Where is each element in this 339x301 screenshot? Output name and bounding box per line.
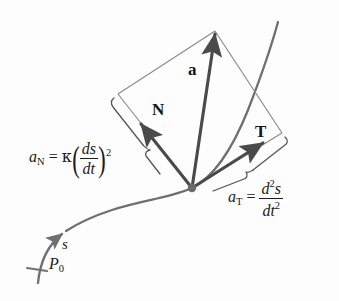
normal-formula-paren-close: ) bbox=[98, 145, 105, 173]
start-point-letter: P bbox=[49, 255, 59, 272]
acceleration-vector-label: a bbox=[188, 61, 197, 78]
d2s-dt2-fraction: d2sdt2 bbox=[259, 178, 283, 219]
tangential-component-formula: aT=d2sdt2 bbox=[228, 178, 283, 219]
dt2-denominator: dt2 bbox=[259, 199, 283, 219]
acceleration-decomposition-figure: a N T aN=κ(dsdt)2 aT=d2sdt2 s P0 bbox=[0, 0, 339, 301]
tangential-formula-subscript: T bbox=[236, 196, 242, 207]
tangential-vector-label: T bbox=[255, 123, 266, 140]
normal-vector-label: N bbox=[152, 101, 164, 118]
dt2-denominator-dt: dt bbox=[262, 201, 274, 218]
normal-formula-equals: = bbox=[49, 148, 58, 165]
normal-formula-exponent: 2 bbox=[106, 147, 111, 158]
normal-formula-subscript: N bbox=[37, 156, 45, 167]
dt2-denominator-exponent: 2 bbox=[275, 200, 280, 211]
parallelogram-construction bbox=[118, 31, 282, 188]
point-on-curve-dot bbox=[188, 184, 196, 192]
d2s-numerator: d2s bbox=[259, 178, 283, 199]
start-point-tick bbox=[27, 268, 47, 271]
normal-formula-var: a bbox=[29, 148, 37, 165]
normal-vector-arrow bbox=[141, 124, 192, 188]
ds-dt-denominator: dt bbox=[80, 159, 98, 177]
arc-length-label: s bbox=[62, 237, 68, 252]
construction-edge-top-left bbox=[118, 31, 215, 94]
normal-component-formula: aN=κ(dsdt)2 bbox=[29, 140, 111, 178]
tangential-formula-equals: = bbox=[246, 188, 255, 205]
ds-dt-numerator: ds bbox=[80, 140, 98, 159]
acceleration-vector-arrow bbox=[192, 34, 215, 188]
start-point-label: P0 bbox=[49, 256, 64, 275]
curve-lower-segment bbox=[66, 188, 192, 231]
curvature-kappa-symbol: κ bbox=[62, 147, 72, 166]
d2s-numerator-s: s bbox=[275, 180, 281, 197]
ds-dt-fraction: dsdt bbox=[80, 140, 98, 178]
start-point-subscript: 0 bbox=[59, 263, 64, 274]
tangential-formula-var: a bbox=[228, 188, 236, 205]
normal-formula-paren-open: ( bbox=[72, 145, 79, 173]
